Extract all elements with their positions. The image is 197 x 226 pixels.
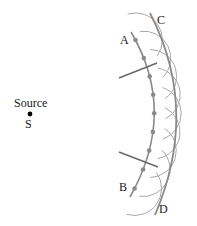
source-point-label: S — [25, 117, 32, 131]
secondary-source-point — [142, 56, 147, 61]
wavelet-arc — [150, 129, 176, 178]
label-a: A — [120, 33, 129, 47]
label-b: B — [119, 180, 127, 194]
source-label: Source — [14, 96, 47, 110]
label-c: C — [157, 13, 165, 27]
secondary-source-point — [133, 38, 138, 43]
huygens-diagram: Source S A B C D — [0, 0, 197, 226]
secondary-source-point — [151, 93, 156, 98]
label-d: D — [159, 202, 168, 216]
secondary-source-point — [132, 186, 137, 191]
secondary-source-point — [151, 130, 156, 135]
secondary-source-point — [147, 74, 152, 79]
ray-lower — [119, 152, 158, 167]
source-point — [28, 112, 33, 117]
secondary-source-point — [141, 167, 146, 172]
secondary-source-point — [152, 111, 157, 116]
secondary-source-point — [147, 148, 152, 153]
